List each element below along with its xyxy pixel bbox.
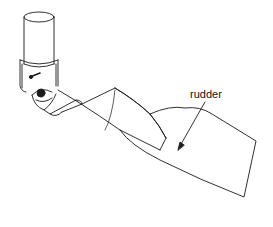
rudder-label: rudder: [190, 88, 222, 100]
rudder-blade: [115, 88, 256, 197]
rudder-assembly-diagram: rudder: [0, 0, 273, 227]
rudder-stock-cylinder: [24, 12, 54, 67]
rudder-shaft: [78, 88, 160, 150]
rudder-label-leader: [178, 102, 205, 150]
universal-joint: [32, 89, 56, 110]
joint-sleeve: [44, 90, 82, 116]
